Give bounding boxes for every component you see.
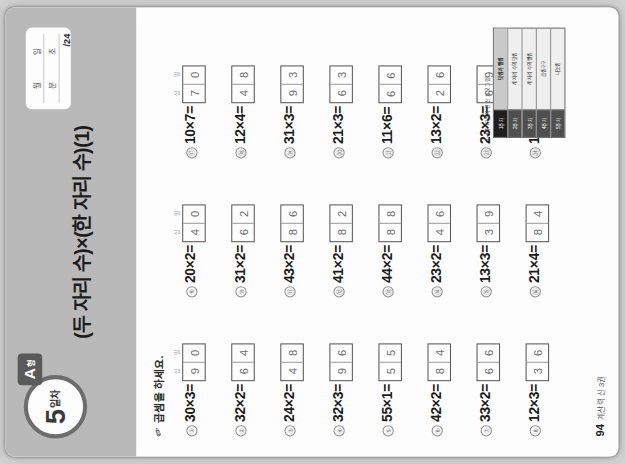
answer-cell-ones[interactable]: 6 [330,344,351,362]
score-time-row: 분 초 [44,34,59,103]
answer-cell-tens[interactable]: 8 [330,224,351,241]
answer-cell-ones[interactable]: 5 [379,344,400,362]
problem-expression: 33×2= [478,384,493,422]
answer-box[interactable]: 63 [329,65,353,103]
answer-cell-ones[interactable]: 3 [330,66,351,84]
answer-cell-ones[interactable]: 2 [232,205,253,223]
answer-cell-ones[interactable]: 0 [183,205,204,223]
answer-cells: 55 [378,343,402,381]
answer-cell-ones[interactable]: 0 [183,66,204,84]
problem-expression: 21×4= [527,245,542,283]
answer-box[interactable]: 48 [231,65,255,103]
answer-cell-tens[interactable]: 9 [281,85,302,102]
day-number: 5 [42,409,70,424]
answer-cells: 70 [182,65,206,103]
answer-cell-ones[interactable]: 8 [232,66,253,84]
problem-expression: 32×2= [232,384,247,422]
answer-box[interactable]: 96 [329,343,353,381]
answer-cell-tens[interactable]: 7 [183,85,204,102]
problem-column: ⑨20×2=십일40⑩31×2=62⑪43×2=86⑫41×2=82⑬44×2=… [178,165,570,298]
answer-cell-tens[interactable]: 6 [379,85,400,102]
answer-box[interactable]: 39 [477,204,501,242]
problem-item: ⑳21×3=63 [325,26,374,159]
answer-cell-ones[interactable]: 2 [330,205,351,223]
answer-cell-ones[interactable]: 6 [281,205,302,223]
answer-cell-tens[interactable]: 2 [429,85,450,102]
answer-cell-ones[interactable]: 6 [429,205,450,223]
answer-cell-ones[interactable]: 6 [429,66,450,84]
answer-cell-tens[interactable]: 8 [379,224,400,241]
problem-expression: 12×4= [232,106,247,144]
answer-cell-tens[interactable]: 4 [429,224,450,241]
answer-cell-tens[interactable]: 8 [281,224,302,241]
answer-cell-ones[interactable]: 6 [379,67,400,85]
answer-cell-ones[interactable]: 6 [478,344,499,362]
answer-cell-tens[interactable]: 6 [330,85,351,102]
problem-column: ①30×3=십일90②32×2=64③24×2=48④32×3=96⑤55×1=… [178,304,570,437]
answer-box[interactable]: 48 [280,343,304,381]
problem-item: ㉒13×2=26 [423,26,472,159]
answer-cell-tens[interactable]: 4 [281,363,302,380]
answer-cell-ones[interactable]: 3 [281,66,302,84]
answer-cell-tens[interactable]: 6 [478,363,499,380]
answer-box[interactable]: 84 [427,343,451,381]
answer-box[interactable]: 84 [526,204,550,242]
answer-cells: 64 [231,343,255,381]
answer-cells: 93 [280,65,304,103]
answer-cell-ones[interactable]: 4 [232,344,253,362]
answer-cell-ones[interactable]: 0 [183,344,204,362]
answer-box[interactable]: 46 [427,204,451,242]
answer-box[interactable]: 66 [477,343,501,381]
answer-cell-tens[interactable]: 3 [478,224,499,241]
answer-box[interactable]: 64 [231,343,255,381]
score-date-row: 월 일 [29,34,44,103]
problem-number: ③ [284,425,295,436]
answer-box[interactable]: 62 [231,204,255,242]
answer-box[interactable]: 십일40 [182,204,206,242]
problem-expression: 30×3= [183,384,198,422]
answer-cells: 86 [280,204,304,242]
answer-cells: 88 [378,204,402,242]
problem-item: ⑰10×7=십일70 [178,26,227,159]
answer-box[interactable]: 55 [378,343,402,381]
second-label: 초 [46,48,57,55]
answer-box[interactable]: 십일90 [182,343,206,381]
problem-number: ④ [333,425,344,436]
tens-place-label: 십 [173,362,181,381]
answer-box[interactable]: 십일70 [182,65,206,103]
answer-box[interactable]: 93 [280,65,304,103]
answer-cell-tens[interactable]: 9 [330,363,351,380]
ones-place-label: 일 [173,65,181,84]
answer-box[interactable]: 36 [526,343,550,381]
answer-cell-tens[interactable]: 8 [527,224,548,241]
problem-number: ⑦ [481,425,492,436]
answer-cell-tens[interactable]: 6 [232,224,253,241]
problem-expression: 12×3= [527,384,542,422]
answer-box[interactable]: 88 [378,204,402,242]
answer-cell-ones[interactable]: 4 [527,205,548,223]
answer-cells: 26 [427,65,451,103]
answer-cells: 48 [231,65,255,103]
answer-box[interactable]: 82 [329,204,353,242]
answer-cell-ones[interactable]: 6 [527,344,548,362]
problem-expression: 43×2= [281,245,296,283]
answer-cell-tens[interactable]: 8 [429,363,450,380]
answer-cell-tens[interactable]: 5 [379,363,400,380]
answer-box[interactable]: 66 [378,66,402,104]
answer-cell-tens[interactable]: 9 [183,363,204,380]
minute-label: 분 [46,82,57,89]
answer-cell-ones[interactable]: 4 [429,344,450,362]
answer-box[interactable]: 86 [280,204,304,242]
answer-cell-tens[interactable]: 4 [183,224,204,241]
day-label: 일 [30,48,41,55]
place-value-labels: 십일 [173,65,181,103]
answer-cell-ones[interactable]: 9 [478,205,499,223]
answer-cell-ones[interactable]: 8 [379,205,400,223]
answer-cell-tens[interactable]: 4 [232,85,253,102]
answer-cell-tens[interactable]: 6 [232,363,253,380]
instruction-line: ✏ 곱셈을 하세요. [151,26,166,437]
problem-expression: 31×2= [232,245,247,283]
answer-box[interactable]: 26 [427,65,451,103]
answer-cell-ones[interactable]: 8 [281,344,302,362]
answer-cell-tens[interactable]: 3 [527,363,548,380]
